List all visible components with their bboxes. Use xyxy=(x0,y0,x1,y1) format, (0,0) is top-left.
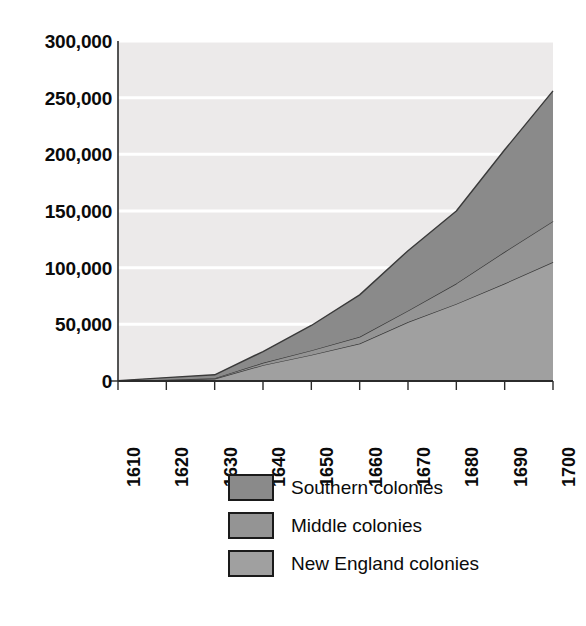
legend-label-0: Southern colonies xyxy=(291,478,443,497)
x-tick-label-1620: 1620 xyxy=(173,447,191,487)
legend-swatch-middle-colonies xyxy=(228,512,274,539)
legend-swatch-southern-colonies xyxy=(228,474,274,501)
population-growth-figure: ns Interact with Oceans to Cyclone ntium… xyxy=(0,0,586,626)
legend-label-1: Middle colonies xyxy=(291,516,422,535)
chart-legend: Southern coloniesMiddle coloniesNew Engl… xyxy=(228,468,568,582)
x-axis-tick-labels: 1610162016301640165016601670168016901700 xyxy=(0,388,586,450)
legend-label-2: New England colonies xyxy=(291,554,479,573)
y-tick-label-50000: 50,000 xyxy=(8,315,112,334)
x-tick-label-1610: 1610 xyxy=(125,447,143,487)
legend-row-1[interactable]: Middle colonies xyxy=(228,506,568,544)
legend-row-2[interactable]: New England colonies xyxy=(228,544,568,582)
plot-area: 050,000100,000150,000200,000250,000300,0… xyxy=(0,0,586,450)
legend-row-0[interactable]: Southern colonies xyxy=(228,468,568,506)
y-tick-label-200000: 200,000 xyxy=(8,145,112,164)
y-tick-label-150000: 150,000 xyxy=(8,202,112,221)
legend-swatch-new-england-colonies xyxy=(228,550,274,577)
y-tick-label-250000: 250,000 xyxy=(8,88,112,107)
y-tick-label-100000: 100,000 xyxy=(8,258,112,277)
y-tick-label-300000: 300,000 xyxy=(8,32,112,51)
y-axis-tick-labels: 050,000100,000150,000200,000250,000300,0… xyxy=(8,34,112,382)
